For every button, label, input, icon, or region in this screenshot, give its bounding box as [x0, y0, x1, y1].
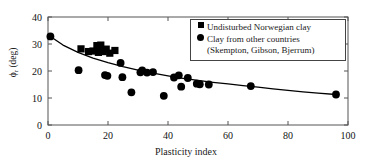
y-axis-unit: (deg)	[8, 48, 18, 68]
legend: Undisturbed Norwegian clay Clay from oth…	[190, 19, 346, 61]
legend-label: Undisturbed Norwegian clay	[207, 22, 311, 34]
data-point-square	[111, 47, 118, 54]
data-point-square	[77, 45, 84, 52]
y-axis-symbol: ϕ	[8, 72, 18, 77]
y-tick-label: 30	[32, 39, 42, 50]
data-point-circle	[75, 66, 83, 74]
x-tick-label: 60	[223, 130, 233, 141]
data-point-circle	[247, 82, 255, 90]
y-tick-label: 20	[32, 66, 42, 77]
y-tick-label: 0	[37, 120, 42, 131]
data-point-circle	[47, 33, 55, 41]
data-point-circle	[196, 80, 204, 88]
y-tick-label: 10	[32, 93, 42, 104]
y-axis-label: ϕr (deg)	[8, 32, 21, 92]
x-tick-label: 20	[103, 130, 113, 141]
data-point-circle	[149, 68, 157, 76]
legend-annotation: (Skempton, Gibson, Bjerrum)	[194, 45, 342, 57]
x-tick-label: 80	[283, 130, 293, 141]
legend-item-other-countries: Clay from other countries	[194, 34, 342, 46]
data-point-circle	[175, 71, 183, 79]
circle-marker-icon	[194, 34, 207, 41]
x-tick-label: 100	[341, 130, 356, 141]
x-tick-label: 40	[163, 130, 173, 141]
legend-label: Clay from other countries	[207, 34, 300, 46]
y-tick-label: 40	[32, 12, 42, 23]
y-axis-subscript: r	[12, 70, 20, 72]
data-point-circle	[117, 59, 125, 67]
data-point-circle	[160, 92, 168, 100]
legend-item-norwegian-clay: Undisturbed Norwegian clay	[194, 22, 342, 34]
data-point-circle	[184, 74, 192, 82]
data-point-circle	[119, 73, 127, 81]
square-marker-icon	[194, 22, 207, 28]
data-point-circle	[104, 72, 112, 80]
x-axis-label: Plasticity index	[0, 146, 372, 157]
data-point-circle	[205, 81, 213, 89]
data-point-circle	[127, 88, 135, 96]
data-point-circle	[332, 91, 340, 99]
figure: 020406080100010203040 ϕr (deg) Plasticit…	[0, 0, 372, 166]
x-tick-label: 0	[46, 130, 51, 141]
data-point-circle	[177, 83, 185, 91]
